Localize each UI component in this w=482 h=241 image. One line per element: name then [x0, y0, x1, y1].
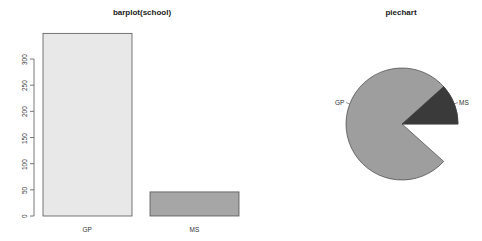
pie-label-ms: MS: [459, 99, 469, 106]
y-tick-label: 200: [21, 106, 28, 117]
pie-label-gp: GP: [335, 99, 344, 106]
y-tick-label: 300: [21, 54, 28, 65]
bar-gp: [43, 33, 132, 216]
pie-label-tick: [454, 103, 458, 104]
pie-label-tick: [346, 103, 350, 104]
bar-label-gp: GP: [83, 226, 92, 233]
y-tick-label: 150: [21, 133, 28, 144]
chart-canvas: [0, 0, 482, 241]
y-tick-label: 250: [21, 80, 28, 91]
bar-label-ms: MS: [190, 226, 200, 233]
y-tick-label: 100: [21, 159, 28, 170]
y-tick-label: 50: [21, 187, 28, 194]
y-tick-label: 0: [21, 214, 28, 218]
bar-ms: [150, 192, 239, 216]
